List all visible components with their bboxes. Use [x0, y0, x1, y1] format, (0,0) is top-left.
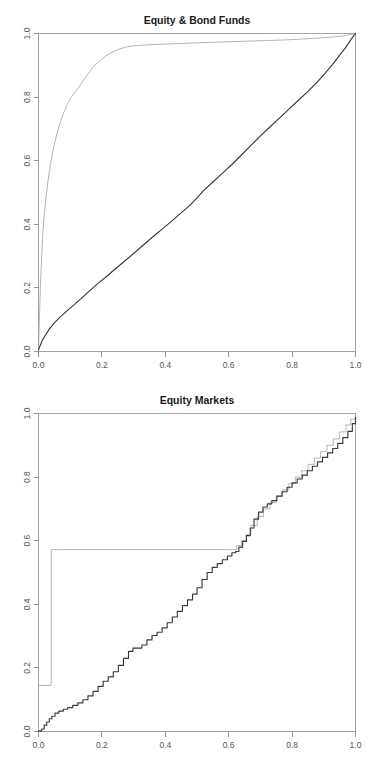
y-tick-label: 0.0: [22, 725, 32, 737]
x-tick-label: 0.8: [286, 360, 298, 370]
x-tick-label: 0.2: [96, 740, 108, 750]
x-tick-label: 1.0: [350, 740, 362, 750]
chart-svg-equity-bond-funds: Equity & Bond Funds0.00.20.40.60.81.00.0…: [0, 0, 374, 380]
y-tick-label: 0.6: [22, 155, 32, 167]
series-dark-curve: [39, 34, 356, 350]
x-tick-label: 0.2: [96, 360, 108, 370]
y-tick-label: 0.0: [22, 345, 32, 357]
series-gray-curve: [39, 34, 356, 352]
chart-panel-equity-markets: Equity Markets0.00.20.40.60.81.00.00.20.…: [0, 380, 374, 760]
y-tick-label: 0.2: [22, 662, 32, 674]
plot-box: [39, 414, 356, 732]
x-tick-label: 0.0: [33, 360, 45, 370]
y-tick-label: 1.0: [22, 27, 32, 39]
plot-title: Equity & Bond Funds: [144, 14, 251, 26]
x-tick-label: 1.0: [350, 360, 362, 370]
y-tick-label: 1.0: [22, 407, 32, 419]
x-tick-label: 0.6: [223, 360, 235, 370]
y-tick-label: 0.4: [22, 598, 32, 610]
x-tick-label: 0.6: [223, 740, 235, 750]
y-tick-label: 0.6: [22, 535, 32, 547]
y-tick-label: 0.4: [22, 218, 32, 230]
plot-title: Equity Markets: [160, 394, 235, 406]
series-gray-step: [39, 414, 356, 686]
x-tick-label: 0.0: [33, 740, 45, 750]
y-tick-label: 0.8: [22, 471, 32, 483]
y-tick-label: 0.2: [22, 282, 32, 294]
y-tick-label: 0.8: [22, 91, 32, 103]
x-tick-label: 0.4: [159, 360, 171, 370]
chart-svg-equity-markets: Equity Markets0.00.20.40.60.81.00.00.20.…: [0, 380, 374, 760]
chart-panel-equity-bond-funds: Equity & Bond Funds0.00.20.40.60.81.00.0…: [0, 0, 374, 380]
plot-box: [39, 34, 356, 352]
figure-page: Equity & Bond Funds0.00.20.40.60.81.00.0…: [0, 0, 374, 760]
x-tick-label: 0.8: [286, 740, 298, 750]
x-tick-label: 0.4: [159, 740, 171, 750]
